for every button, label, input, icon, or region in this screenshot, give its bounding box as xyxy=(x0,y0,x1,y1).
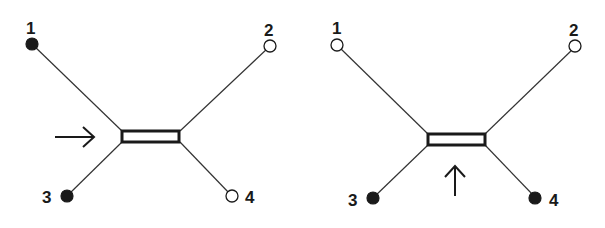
node-label-3: 3 xyxy=(348,191,357,210)
node-4-open xyxy=(226,190,238,202)
arrow-up-icon xyxy=(445,166,465,196)
arrow-right-icon xyxy=(55,127,94,147)
node-label-1: 1 xyxy=(332,19,341,38)
right-diagram: 1 2 3 4 xyxy=(331,19,581,210)
leg-4 xyxy=(485,145,534,196)
node-label-2: 2 xyxy=(264,21,273,40)
node-label-4: 4 xyxy=(549,191,559,210)
node-2-open xyxy=(264,40,276,52)
node-2-open xyxy=(569,40,581,52)
left-diagram: 1 2 3 4 xyxy=(26,19,276,207)
leg-1 xyxy=(33,45,122,131)
leg-1 xyxy=(339,47,428,134)
node-label-3: 3 xyxy=(42,188,51,207)
leg-3 xyxy=(67,142,122,196)
node-3-filled xyxy=(367,192,379,204)
node-1-open xyxy=(331,39,343,51)
node-3-filled xyxy=(61,190,73,202)
leg-4 xyxy=(180,142,230,194)
node-1-filled xyxy=(26,38,38,50)
propagator-box xyxy=(428,134,485,145)
node-4-filled xyxy=(529,192,541,204)
leg-2 xyxy=(180,48,268,131)
node-label-4: 4 xyxy=(245,188,255,207)
leg-3 xyxy=(373,145,428,198)
leg-2 xyxy=(485,49,573,134)
node-label-2: 2 xyxy=(569,21,578,40)
propagator-box xyxy=(122,131,179,142)
node-label-1: 1 xyxy=(26,19,35,38)
diagram-canvas: 1 2 3 4 1 2 3 4 xyxy=(0,0,605,228)
